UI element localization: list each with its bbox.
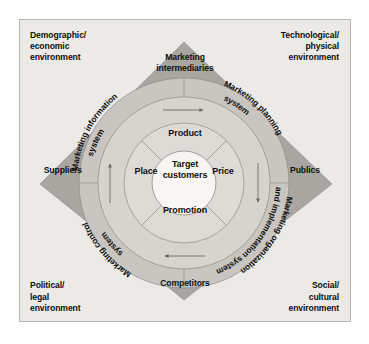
marketing-environment-diagram: Marketing information system Marketing p… [0, 0, 369, 344]
actor-label-competitors: Competitors [135, 278, 235, 289]
marketing-mix-promotion-label: Promotion [141, 205, 229, 215]
marketing-mix-product-label: Product [145, 128, 225, 138]
actor-label-marketing-intermediaries: Marketing intermediaries [135, 52, 235, 73]
environment-label-demographic-economic: Demographic/ economic environment [30, 30, 86, 64]
environment-label-political-legal: Political/ legal environment [30, 280, 80, 314]
marketing-mix-place-label: Place [124, 166, 168, 176]
actor-label-publics: Publics [290, 165, 348, 176]
actor-label-suppliers: Suppliers [24, 165, 82, 176]
marketing-mix-ring [124, 123, 244, 243]
marketing-mix-price-label: Price [201, 166, 245, 176]
environment-label-technological-physical: Technological/ physical environment [281, 30, 339, 64]
environment-label-social-cultural: Social/ cultural environment [289, 280, 339, 314]
